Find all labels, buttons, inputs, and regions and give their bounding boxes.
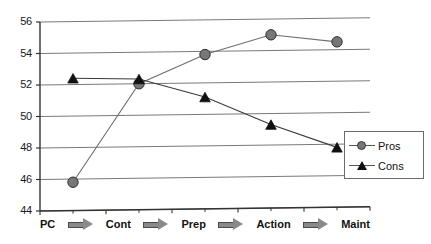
x-axis-category-labels: PCContPrepActionMaint (40, 214, 370, 234)
x-axis-label-action: Action (256, 218, 290, 230)
legend-marker-triangle-icon (349, 160, 375, 172)
chart-legend: Pros Cons (344, 131, 424, 179)
arrow-right-icon (68, 219, 94, 230)
legend-item-cons: Cons (349, 157, 404, 175)
gridline (40, 175, 370, 179)
chart-plot-area (0, 0, 431, 244)
data-point-pros (266, 30, 276, 40)
x-axis-label-maint: Maint (341, 218, 370, 230)
arrow-right-icon (218, 219, 244, 230)
legend-label-pros: Pros (378, 140, 401, 152)
y-axis-tick-label: 44 (10, 204, 32, 216)
gridline (40, 144, 370, 148)
y-axis-tick-label: 50 (10, 110, 32, 122)
x-axis-label-cont: Cont (106, 218, 131, 230)
gridline (40, 18, 370, 22)
y-axis-tick-label: 52 (10, 78, 32, 90)
data-point-pros (332, 37, 342, 47)
y-axis-tick-label: 48 (10, 141, 32, 153)
arrow-right-icon (143, 219, 169, 230)
data-point-pros (68, 177, 78, 187)
legend-label-cons: Cons (378, 160, 404, 172)
legend-marker-circle-icon (349, 140, 375, 152)
data-point-cons (266, 120, 277, 130)
y-axis-tick-label: 56 (10, 15, 32, 27)
data-point-pros (200, 49, 210, 59)
y-axis-tick-label: 46 (10, 173, 32, 185)
gridline (40, 81, 370, 85)
data-point-cons (200, 92, 211, 102)
arrow-right-icon (303, 219, 329, 230)
x-axis-label-prep: Prep (181, 218, 205, 230)
x-axis-label-pc: PC (40, 218, 55, 230)
line-chart: 56545250484644 PCContPrepActionMaint Pro… (0, 0, 431, 244)
y-axis-tick-label: 54 (10, 47, 32, 59)
gridline (40, 112, 370, 116)
legend-item-pros: Pros (349, 137, 401, 155)
